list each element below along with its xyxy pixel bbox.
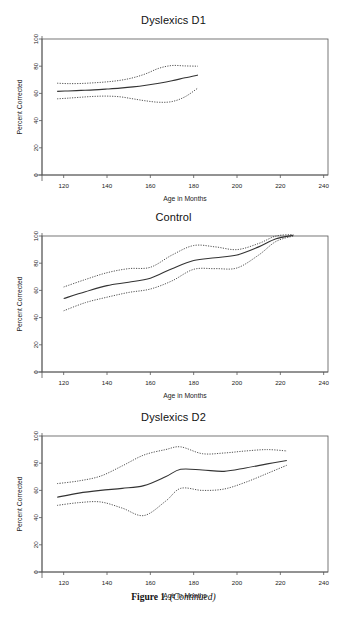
x-tick-label: 120 [59,379,70,386]
panel-dyslexics-d2: Dyslexics D2 120140160180200220240020406… [0,407,347,607]
figure-container: Dyslexics D1 120140160180200220240020406… [0,0,347,619]
x-tick-label: 240 [319,579,330,586]
x-tick-label: 200 [232,182,243,189]
x-tick-label: 220 [275,182,286,189]
x-tick-label: 240 [319,379,330,386]
panel-dyslexics-d1: Dyslexics D1 120140160180200220240020406… [0,10,347,210]
x-tick-label: 160 [145,579,156,586]
x-tick-label: 180 [189,379,200,386]
y-tick-label: 60 [32,286,39,293]
x-tick-label: 120 [59,579,70,586]
y-axis-label: Percent Corrected [16,476,23,531]
y-tick-label: 80 [32,459,39,466]
x-tick-label: 120 [59,182,70,189]
x-tick-label: 180 [189,579,200,586]
confidence-band-line [64,235,294,287]
y-tick-label: 20 [32,541,39,548]
y-tick-label: 100 [32,430,39,441]
fitted-mean-line [57,460,287,497]
x-tick-label: 220 [275,379,286,386]
y-tick-label: 80 [32,259,39,266]
y-tick-label: 100 [32,33,39,44]
plot-dyslexics-d1: 120140160180200220240020406080100Age in … [0,10,347,210]
y-tick-label: 0 [32,570,39,574]
y-tick-label: 0 [32,173,39,177]
x-axis-label: Age in Months [163,392,207,400]
x-tick-label: 140 [102,579,113,586]
x-tick-label: 180 [189,182,200,189]
x-tick-label: 160 [145,182,156,189]
figure-caption-label: Figure 1. [131,592,167,602]
y-tick-label: 60 [32,486,39,493]
confidence-band-line [57,447,287,484]
x-tick-label: 160 [145,379,156,386]
fitted-mean-line [64,235,294,298]
y-tick-label: 40 [32,514,39,521]
y-tick-label: 100 [32,230,39,241]
y-tick-label: 0 [32,370,39,374]
y-tick-label: 20 [32,341,39,348]
y-tick-label: 40 [32,117,39,124]
plot-dyslexics-d2: 120140160180200220240020406080100Age in … [0,407,347,607]
y-tick-label: 40 [32,314,39,321]
plot-frame [42,39,328,175]
x-tick-label: 240 [319,182,330,189]
plot-frame [42,436,328,572]
x-tick-label: 220 [275,579,286,586]
confidence-band-line [57,65,198,83]
plot-control: 120140160180200220240020406080100Age in … [0,207,347,407]
y-tick-label: 20 [32,144,39,151]
x-tick-label: 140 [102,379,113,386]
panel-control: Control 12014016018020022024002040608010… [0,207,347,407]
y-axis-label: Percent Corrected [16,276,23,331]
y-tick-label: 60 [32,89,39,96]
figure-caption-continued: (Continued) [170,592,216,602]
x-tick-label: 200 [232,579,243,586]
y-axis-label: Percent Corrected [16,79,23,134]
x-tick-label: 140 [102,182,113,189]
figure-caption: Figure 1. (Continued) [0,592,347,602]
x-axis-label: Age in Months [163,195,207,203]
x-tick-label: 200 [232,379,243,386]
y-tick-label: 80 [32,62,39,69]
plot-frame [42,236,328,372]
